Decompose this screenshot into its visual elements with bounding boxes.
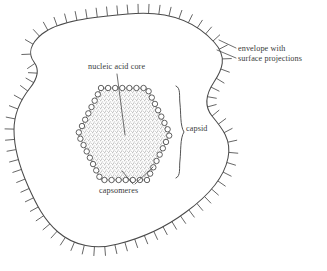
capsomere — [81, 142, 86, 147]
capsomere — [159, 114, 164, 119]
capsomere — [166, 133, 171, 138]
surface-projection-spike — [163, 227, 167, 235]
surface-projection-spike — [10, 160, 19, 162]
surface-projection-spike — [206, 27, 212, 34]
surface-projection-spike — [13, 169, 22, 172]
surface-projection-spike — [228, 140, 237, 142]
surface-projection-spike — [28, 73, 37, 74]
surface-projection-spike — [127, 5, 128, 14]
capsomere — [157, 152, 162, 157]
capsomere — [105, 85, 110, 90]
surface-projection-spike — [30, 207, 38, 211]
surface-projection-spike — [172, 222, 177, 230]
surface-projection-spike — [224, 128, 232, 132]
surface-projection-spike — [94, 247, 95, 256]
virus-structure-diagram — [0, 0, 327, 271]
surface-projection-spike — [82, 245, 84, 254]
surface-projection-spike — [43, 22, 47, 30]
surface-projection-spike — [229, 152, 238, 153]
label-envelope-line1: envelope with — [238, 44, 285, 53]
surface-projection-spike — [205, 197, 211, 203]
surface-projection-spike — [26, 78, 34, 83]
surface-projection-spike — [107, 7, 108, 16]
surface-projection-spike — [6, 117, 15, 119]
capsomere — [84, 149, 89, 154]
capsomere — [155, 108, 160, 113]
surface-projection-spike — [20, 86, 27, 91]
surface-projection-spike — [33, 30, 39, 37]
capsomere — [127, 85, 132, 90]
surface-projection-spike — [189, 210, 194, 217]
capsomere — [152, 101, 157, 106]
surface-projection-spike — [223, 172, 231, 176]
surface-projection-spike — [86, 10, 87, 19]
capsomere — [144, 177, 149, 182]
capsomere — [79, 123, 84, 128]
surface-projection-spike — [144, 235, 147, 243]
capsomere — [116, 177, 121, 182]
capsomere — [149, 95, 154, 100]
surface-projection-spike — [212, 110, 219, 116]
capsomere — [86, 111, 91, 116]
surface-projection-spike — [25, 198, 33, 202]
leader-envelope-upper — [219, 40, 236, 48]
label-capsid: capsid — [186, 124, 208, 134]
capsomere — [76, 130, 81, 135]
surface-projection-spike — [115, 245, 117, 254]
surface-projection-spike — [216, 78, 224, 83]
surface-projection-spike — [169, 7, 171, 16]
surface-projection-spike — [36, 216, 43, 221]
surface-projection-spike — [117, 6, 118, 15]
surface-projection-spike — [154, 231, 158, 239]
capsomere — [112, 85, 117, 90]
label-capsomeres: capsomeres — [99, 186, 138, 196]
capsomere — [94, 168, 99, 173]
capsomere — [89, 104, 94, 109]
surface-projection-spike — [28, 63, 35, 68]
surface-projection-spike — [71, 242, 74, 250]
capsomere — [82, 117, 87, 122]
surface-projection-spike — [25, 40, 33, 45]
surface-projection-spike — [7, 150, 16, 152]
label-envelope-line2: surface projections — [238, 54, 302, 63]
capsomere — [98, 85, 103, 90]
surface-projection-spike — [75, 12, 77, 21]
surface-projection-spike — [212, 189, 219, 195]
surface-projection-spike — [125, 242, 127, 251]
surface-projection-spike — [96, 8, 97, 17]
surface-projection-spike — [181, 216, 186, 223]
capsomere — [87, 155, 92, 160]
capsomere — [109, 177, 114, 182]
surface-projection-spike — [51, 231, 57, 238]
capsomere — [151, 165, 156, 170]
capsomere — [163, 139, 168, 144]
capsomere — [90, 161, 95, 166]
capsomere — [162, 120, 167, 125]
capsomere — [95, 92, 100, 97]
capsomere — [97, 174, 102, 179]
surface-projection-spike — [207, 97, 216, 99]
surface-projection-spike — [188, 15, 192, 23]
surface-projection-spike — [211, 87, 219, 91]
surface-projection-spike — [219, 119, 226, 124]
surface-projection-spike — [105, 246, 106, 255]
surface-projection-spike — [218, 181, 225, 186]
surface-projection-spike — [65, 14, 67, 23]
surface-projection-spike — [219, 45, 227, 49]
surface-projection-spike — [17, 179, 25, 182]
capsomere — [165, 127, 170, 132]
surface-projection-spike — [43, 224, 50, 230]
capsomere — [154, 158, 159, 163]
surface-projection-spike — [5, 139, 14, 140]
capsomere — [141, 85, 146, 90]
surface-projection-spike — [207, 105, 216, 107]
surface-projection-spike — [227, 163, 236, 166]
surface-projection-spike — [221, 69, 229, 72]
surface-projection-spike — [14, 95, 22, 99]
capsomere — [134, 85, 139, 90]
capsomere — [102, 177, 107, 182]
surface-projection-spike — [197, 203, 203, 210]
capsomere — [78, 136, 83, 141]
capsomere — [92, 98, 97, 103]
surface-projection-spike — [179, 10, 182, 18]
